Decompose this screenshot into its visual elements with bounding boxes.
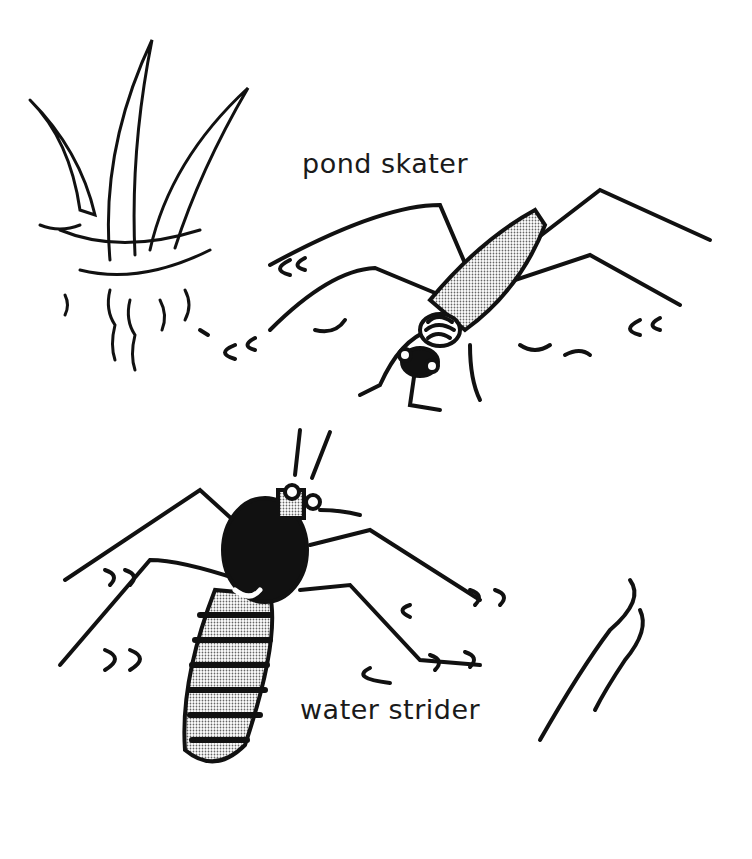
reeds — [30, 40, 248, 370]
illustration-canvas: pond skater water strider — [0, 0, 752, 859]
pond-skater — [200, 190, 710, 410]
water-strider-label: water strider — [300, 694, 480, 725]
line-drawing — [0, 0, 752, 859]
pond-skater-label: pond skater — [302, 148, 468, 179]
